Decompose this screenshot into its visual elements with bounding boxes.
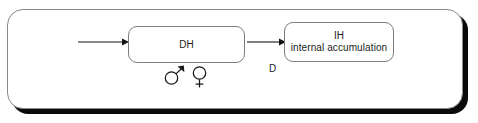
arrow-dh-to-ih-icon bbox=[247, 36, 287, 48]
node-dh-title: DH bbox=[179, 39, 194, 51]
male-symbol-icon bbox=[163, 63, 187, 87]
node-ih-subtitle: internal accumulation bbox=[291, 42, 388, 54]
node-ih-title: IH bbox=[334, 30, 344, 42]
node-ih[interactable]: IH internal accumulation bbox=[284, 22, 394, 62]
label-d: D bbox=[269, 63, 276, 75]
diagram-canvas: DH IH internal accumulation D bbox=[0, 0, 478, 123]
arrow-into-dh-icon bbox=[78, 36, 130, 48]
node-dh[interactable]: DH bbox=[128, 26, 245, 63]
female-symbol-icon bbox=[190, 64, 212, 90]
